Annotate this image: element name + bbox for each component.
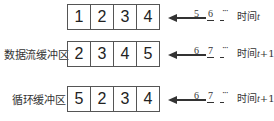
buffer-row-time-t: 1 2 3 4 5 6 ··· 时间t xyxy=(0,4,274,30)
arrow-shaft xyxy=(172,17,206,19)
time-label: 时间t+1 xyxy=(237,90,274,105)
row-label-data-stream-buffer: 数据流缓冲区 xyxy=(4,46,68,62)
buffer-cell: 2 xyxy=(68,42,91,66)
time-label: 时间t+1 xyxy=(237,45,274,60)
buffer-row-circular: 循环缓冲区 5 2 3 4 6 7 ··· 时间t+1 xyxy=(0,86,274,112)
time-label: 时间t xyxy=(237,8,260,23)
incoming-item: 7 xyxy=(208,90,213,101)
ellipsis: ··· xyxy=(222,43,228,53)
buffer-cell: 3 xyxy=(91,42,114,66)
incoming-item: 5 xyxy=(194,8,199,19)
buffer-row-data-stream: 数据流缓冲区 2 3 4 5 6 7 ··· 时间t+1 xyxy=(0,41,274,67)
dash-mark xyxy=(220,102,224,103)
dash-mark xyxy=(220,57,224,58)
buffer-cells: 5 2 3 4 xyxy=(67,86,160,112)
buffer-cell: 3 xyxy=(114,5,137,29)
dash-mark xyxy=(220,20,224,21)
buffer-cell: 3 xyxy=(114,87,137,111)
arrow-shaft xyxy=(172,54,206,56)
incoming-item: 7 xyxy=(208,45,213,56)
buffer-cell: 4 xyxy=(137,5,159,29)
buffer-cell: 2 xyxy=(91,5,114,29)
buffer-cell: 1 xyxy=(68,5,91,29)
arrow-shaft xyxy=(172,99,206,101)
incoming-item: 6 xyxy=(194,45,199,56)
ellipsis: ··· xyxy=(222,88,228,98)
buffer-cell: 4 xyxy=(137,87,159,111)
buffer-cell: 2 xyxy=(91,87,114,111)
buffer-cells: 2 3 4 5 xyxy=(67,41,160,67)
buffer-cell: 5 xyxy=(137,42,159,66)
buffer-cells: 1 2 3 4 xyxy=(67,4,160,30)
incoming-item: 6 xyxy=(194,90,199,101)
buffer-cell: 4 xyxy=(114,42,137,66)
incoming-item: 6 xyxy=(208,8,213,19)
buffer-cell: 5 xyxy=(68,87,91,111)
ellipsis: ··· xyxy=(222,6,228,16)
row-label-circular-buffer: 循环缓冲区 xyxy=(12,91,66,107)
